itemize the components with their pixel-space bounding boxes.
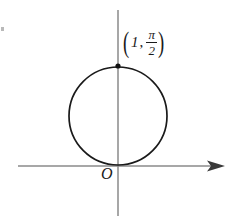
close-paren: ) (158, 27, 164, 57)
scan-artifact-speck (1, 27, 4, 31)
polar-circle-figure (0, 0, 233, 216)
theta-fraction: π 2 (146, 28, 157, 57)
point-coordinate-label: ( 1 , π 2 ) (121, 27, 166, 57)
open-paren: ( (123, 27, 129, 57)
data-point-marker (115, 63, 120, 68)
theta-denominator: 2 (147, 43, 158, 57)
radius-value: 1 (130, 35, 140, 50)
theta-numerator: π (146, 28, 157, 42)
coordinate-comma: , (140, 35, 147, 50)
origin-label: O (101, 166, 113, 182)
